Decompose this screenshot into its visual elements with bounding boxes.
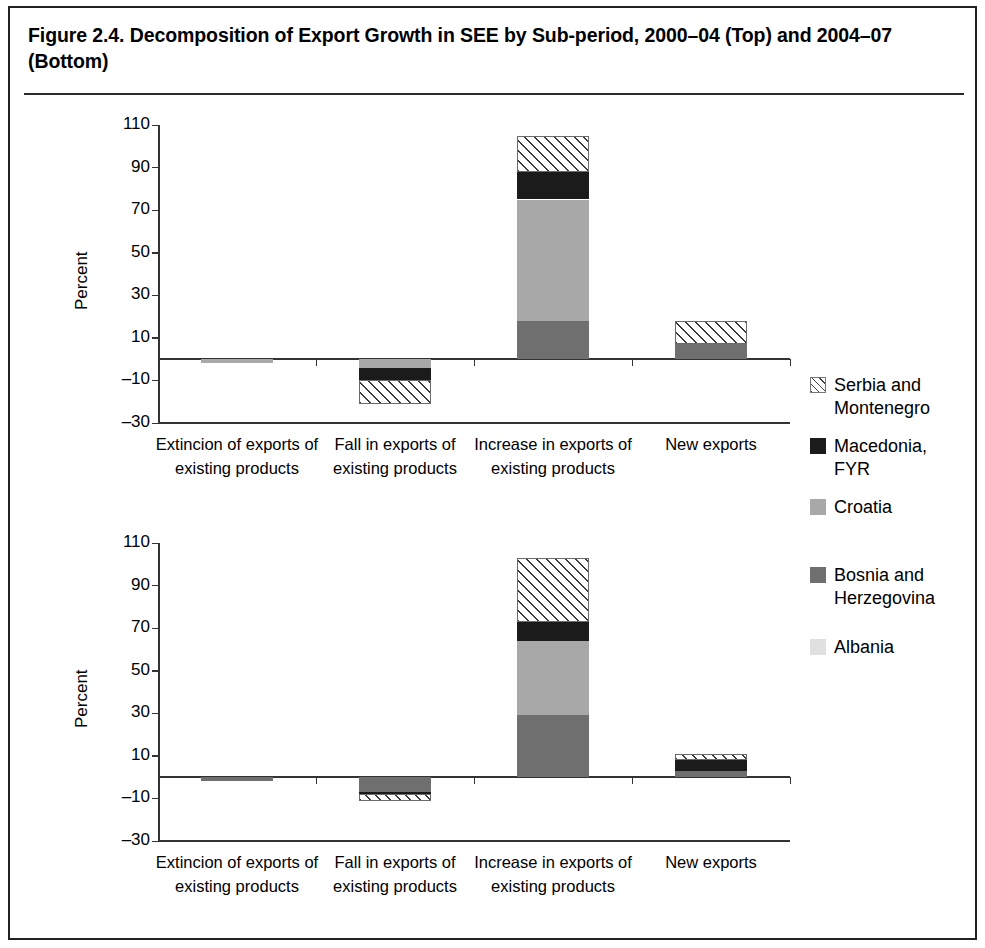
bar-segment-croatia [517,200,589,321]
y-axis-tick-label: 70 [94,199,150,219]
bar-segment-bosnia [675,771,747,777]
x-axis-tick [158,777,159,784]
y-axis-tick-label: –30 [94,830,150,850]
bar-segment-serbia [359,794,431,800]
legend-label: Albania [834,636,980,659]
legend-swatch-bosnia-icon [810,567,826,583]
chart-legend: Serbia and MontenegroMacedonia, FYRCroat… [810,374,980,676]
x-axis-tick [790,359,791,366]
y-axis-tick-label: –10 [94,369,150,389]
figure-container: Figure 2.4. Decomposition of Export Grow… [8,6,977,940]
bar-segment-bosnia [359,777,431,792]
y-axis-tick-label: 10 [94,327,150,347]
bar-segment-serbia [517,136,589,172]
bar-segment-croatia [359,359,431,368]
x-axis-tick [632,359,633,366]
legend-item-macedonia[interactable]: Macedonia, FYR [810,435,980,482]
legend-label: Bosnia and Herzegovina [834,564,980,611]
y-axis-tick-label: 90 [94,157,150,177]
y-axis-tick [152,125,159,126]
y-axis-tick-label: 110 [94,114,150,134]
x-axis-tick [632,777,633,784]
x-axis-tick [474,359,475,366]
y-axis-tick [152,798,159,799]
y-axis-tick [152,543,159,544]
legend-item-bosnia[interactable]: Bosnia and Herzegovina [810,564,980,611]
legend-label: Serbia and Montenegro [834,374,980,421]
y-axis-tick [152,252,159,253]
legend-item-croatia[interactable]: Croatia [810,496,980,522]
y-axis-tick-label: 90 [94,575,150,595]
legend-item-serbia[interactable]: Serbia and Montenegro [810,374,980,421]
x-axis-tick [316,777,317,784]
bar-segment-serbia [517,558,589,622]
y-axis-line [158,125,160,423]
y-axis-tick [152,210,159,211]
y-axis-tick-label: 70 [94,617,150,637]
legend-swatch-macedonia-icon [810,438,826,454]
y-axis-tick [152,167,159,168]
x-axis-category-label: Extincion of exports of existing product… [152,851,322,899]
bar-segment-macedonia [517,172,589,200]
bar-segment-macedonia [359,368,431,381]
y-axis-line [158,543,160,841]
bar-segment-serbia [675,754,747,760]
y-axis-tick [152,713,159,714]
bar-segment-macedonia [517,622,589,641]
legend-swatch-croatia-icon [810,499,826,515]
legend-swatch-serbia-icon [810,377,826,393]
bar-segment-bosnia [517,321,589,359]
legend-swatch-albania-icon [810,639,826,655]
legend-item-albania[interactable]: Albania [810,636,980,662]
x-axis-line [158,422,790,424]
legend-label: Croatia [834,496,980,519]
y-axis-tick [152,295,159,296]
y-axis-tick [152,670,159,671]
y-axis-tick [152,585,159,586]
bar-segment-croatia [517,641,589,716]
x-axis-tick [474,777,475,784]
x-axis-category-label: Fall in exports of existing products [310,851,480,899]
y-axis-tick [152,380,159,381]
y-axis-tick-label: 30 [94,702,150,722]
y-axis-tick [152,337,159,338]
y-axis-tick-label: 10 [94,745,150,765]
bar-segment-bosnia [675,344,747,359]
x-axis-category-label: New exports [626,851,796,875]
y-axis-title: Percent [72,669,92,728]
legend-label: Macedonia, FYR [834,435,980,482]
chart-panel-bottom: 1109070503010–10–30PercentExtincion of e… [10,426,810,946]
bar-segment-bosnia [201,777,273,781]
bar-segment-bosnia [517,715,589,777]
y-axis-tick-label: –10 [94,787,150,807]
bar-segment-macedonia [675,760,747,771]
y-axis-tick-label: 50 [94,660,150,680]
x-axis-tick [158,359,159,366]
y-axis-title: Percent [72,251,92,310]
bar-segment-serbia [675,321,747,344]
bar-segment-croatia [201,359,273,363]
y-axis-tick-label: 30 [94,284,150,304]
x-axis-category-label: Increase in exports of existing products [468,851,638,899]
y-axis-tick-label: 50 [94,242,150,262]
bar-segment-serbia [359,380,431,403]
y-axis-tick-label: 110 [94,532,150,552]
x-axis-tick [790,777,791,784]
x-axis-tick [316,359,317,366]
y-axis-tick [152,628,159,629]
y-axis-tick [152,755,159,756]
x-axis-line [158,840,790,842]
